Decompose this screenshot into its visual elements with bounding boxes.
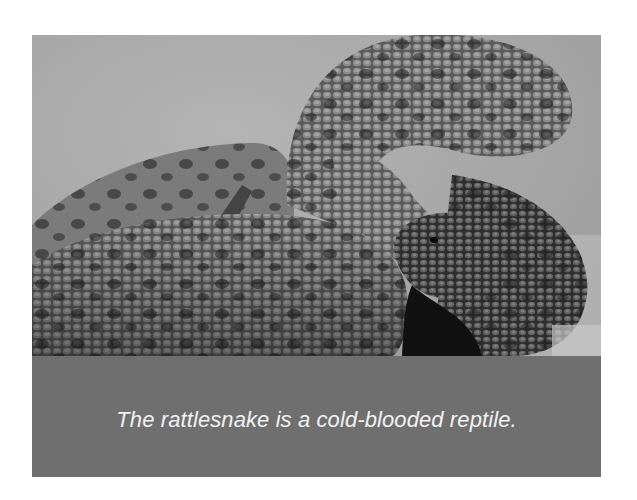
figure: The rattlesnake is a cold-blooded reptil… <box>32 35 601 477</box>
rattlesnake-illustration <box>32 35 601 356</box>
rattlesnake-photo <box>32 35 601 356</box>
caption-text: The rattlesnake is a cold-blooded reptil… <box>116 407 516 433</box>
snake-eye <box>430 237 438 243</box>
caption-panel: The rattlesnake is a cold-blooded reptil… <box>32 356 601 477</box>
